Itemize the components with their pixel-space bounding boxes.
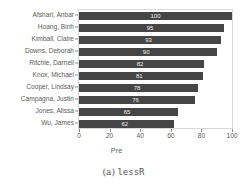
y-axis-label: Campagna, Justin — [21, 96, 78, 103]
y-axis-label: Downs, Deborah — [25, 48, 78, 55]
y-axis-label-row: Hoang, Binh — [0, 21, 78, 33]
bar-value-label: 62 — [121, 121, 128, 127]
y-axis-label-row: Knox, Michael — [0, 69, 78, 81]
bar-row: 95 — [79, 22, 232, 34]
bar-row: 82 — [79, 58, 232, 70]
y-axis-label: Jones, Alissa — [36, 108, 78, 115]
bar-row: 65 — [79, 106, 232, 118]
bar-value-label: 78 — [134, 85, 141, 91]
x-axis-tick-label: 20 — [106, 133, 113, 140]
plot-panel: 100959390828178766562 — [78, 9, 233, 129]
y-axis-label-row: Jones, Alissa — [0, 105, 78, 117]
x-axis-tick-label: 100 — [226, 133, 237, 140]
bar-value-label: 100 — [151, 13, 161, 19]
y-axis-label: Ritchie, Darnell — [29, 60, 78, 67]
y-axis-label-row: Ritchie, Darnell — [0, 57, 78, 69]
y-axis-label: Cooper, Lindsay — [26, 84, 78, 91]
y-axis-label-row: Downs, Deborah — [0, 45, 78, 57]
bar-row: 78 — [79, 82, 232, 94]
bar-row: 81 — [79, 70, 232, 82]
y-axis-label: Hoang, Binh — [38, 24, 78, 31]
y-axis-label-row: Campagna, Justin — [0, 93, 78, 105]
y-axis-label-row: Cooper, Lindsay — [0, 81, 78, 93]
bar-value-label: 76 — [132, 97, 139, 103]
bar-row: 100 — [79, 10, 232, 22]
caption-index: (a) — [103, 167, 115, 177]
x-axis-title: Pre — [0, 147, 233, 154]
y-axis-label: Knox, Michael — [33, 72, 78, 79]
figure-caption: (a) lessR — [0, 168, 247, 177]
bar-value-label: 81 — [136, 73, 143, 79]
x-axis: 020406080100 — [78, 129, 233, 145]
y-axis-label-row: Wu, James — [0, 117, 78, 129]
x-axis-tick-label: 40 — [137, 133, 144, 140]
plot-area: Afshari, AnbarHoang, BinhKimball, Claire… — [0, 0, 247, 143]
y-axis-category-labels: Afshari, AnbarHoang, BinhKimball, Claire… — [0, 9, 78, 129]
y-axis-label: Afshari, Anbar — [33, 12, 78, 19]
x-axis-tick-label: 0 — [77, 133, 81, 140]
bar-value-label: 93 — [145, 37, 152, 43]
bar-value-label: 90 — [143, 49, 150, 55]
y-axis-label-row: Kimball, Claire — [0, 33, 78, 45]
bar-row: 93 — [79, 34, 232, 46]
y-axis-label: Kimball, Claire — [31, 36, 78, 43]
figure: Afshari, AnbarHoang, BinhKimball, Claire… — [0, 0, 247, 195]
y-axis-label-row: Afshari, Anbar — [0, 9, 78, 21]
bar-value-label: 95 — [147, 25, 154, 31]
bar-row: 76 — [79, 94, 232, 106]
x-axis-tick-label: 60 — [167, 133, 174, 140]
y-axis-label: Wu, James — [41, 120, 78, 127]
bar-row: 90 — [79, 46, 232, 58]
bar-value-label: 82 — [137, 61, 144, 67]
bar-value-label: 65 — [124, 109, 131, 115]
caption-name: lessR — [117, 167, 144, 177]
x-axis-tick-label: 80 — [198, 133, 205, 140]
